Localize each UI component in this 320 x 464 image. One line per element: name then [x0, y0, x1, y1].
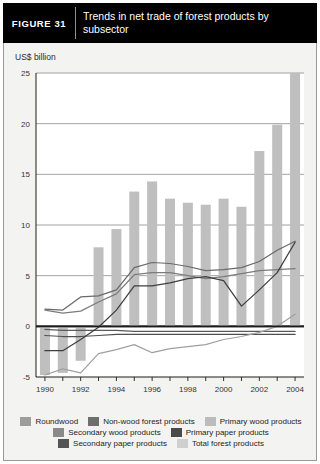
x-tick-label: 2004 [286, 385, 304, 394]
legend-item-label: Roundwood [35, 417, 78, 426]
chart-panel: US$ billion -50510152025 199019921994199… [3, 43, 317, 461]
legend-item-label: Primary wood products [220, 417, 302, 426]
bar [254, 151, 264, 326]
figure-title: Trends in net trade of forest products b… [76, 3, 317, 43]
legend-item[interactable]: Primary wood products [205, 417, 302, 426]
x-tick-label: 1992 [72, 385, 90, 394]
ytick-labels-group: -50510152025 [21, 69, 30, 382]
legend-item[interactable]: Secondary wood products [53, 428, 161, 437]
y-tick-label: 25 [21, 69, 30, 78]
legend-swatch-icon [88, 417, 99, 426]
legend-item[interactable]: Secondary paper products [58, 439, 167, 448]
xtick-labels-group: 19901992199419961998200020022004 [36, 385, 304, 394]
bar [94, 247, 104, 326]
legend-row: Secondary wood productsPrimary paper pro… [12, 428, 310, 437]
legend-item[interactable]: Non-wood forest products [88, 417, 195, 426]
bar [272, 125, 282, 327]
bar [129, 192, 139, 327]
bar [165, 199, 175, 327]
bar [58, 326, 68, 373]
x-tick-label: 2002 [250, 385, 268, 394]
bar [147, 181, 157, 326]
legend-swatch-icon [177, 439, 188, 448]
x-tick-label: 1990 [36, 385, 54, 394]
y-tick-label: 5 [26, 272, 31, 281]
legend-item-label: Secondary wood products [68, 428, 161, 437]
legend-item-label: Non-wood forest products [103, 417, 195, 426]
legend-swatch-icon [58, 439, 69, 448]
bar [201, 205, 211, 327]
bar [111, 229, 121, 326]
legend-item[interactable]: Total forest products [177, 439, 264, 448]
y-tick-label: 15 [21, 170, 30, 179]
legend-item-label: Secondary paper products [73, 439, 167, 448]
bar [219, 199, 229, 327]
legend-swatch-icon [20, 417, 31, 426]
chart-legend: RoundwoodNon-wood forest productsPrimary… [12, 417, 310, 457]
y-tick-label: 20 [21, 120, 30, 129]
plot-area: -50510152025 199019921994199619982000200… [12, 65, 310, 413]
y-axis-unit-label: US$ billion [15, 52, 56, 62]
y-tick-label: 0 [26, 322, 31, 331]
legend-swatch-icon [205, 417, 216, 426]
bar [76, 326, 86, 360]
legend-row: RoundwoodNon-wood forest productsPrimary… [12, 417, 310, 426]
x-tick-label: 1998 [179, 385, 197, 394]
y-tick-label: 10 [21, 221, 30, 230]
chart-svg: -50510152025 199019921994199619982000200… [12, 65, 310, 413]
legend-swatch-icon [171, 428, 182, 437]
legend-row: Secondary paper productsTotal forest pro… [12, 439, 310, 448]
figure-card: FIGURE 31 Trends in net trade of forest … [0, 0, 320, 464]
bar [183, 203, 193, 327]
legend-item[interactable]: Roundwood [20, 417, 78, 426]
bar [290, 73, 300, 326]
x-tick-label: 1994 [108, 385, 126, 394]
figure-number-tag: FIGURE 31 [3, 3, 75, 43]
legend-swatch-icon [53, 428, 64, 437]
legend-item-label: Total forest products [192, 439, 264, 448]
figure-number-label: FIGURE 31 [12, 18, 67, 29]
legend-item[interactable]: Primary paper products [171, 428, 269, 437]
legend-item-label: Primary paper products [186, 428, 269, 437]
x-tick-label: 1996 [143, 385, 161, 394]
y-tick-label: -5 [23, 373, 31, 382]
x-tick-label: 2000 [215, 385, 233, 394]
figure-header: FIGURE 31 Trends in net trade of forest … [3, 3, 317, 43]
